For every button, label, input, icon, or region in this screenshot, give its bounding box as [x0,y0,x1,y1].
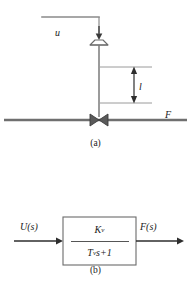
input-signal-label: U(s) [20,222,38,232]
lift-dimension-arrow-head-down [131,96,137,104]
diaphragm-actuator [90,40,108,45]
transfer-function-denominator: Tvs+1 [87,242,111,264]
valve-body-right-triangle [99,114,108,126]
valve-lift-label: l [139,82,142,92]
transfer-function-numerator: Kv [95,219,105,241]
output-signal-label: F(s) [140,222,157,232]
transfer-function-expression: Kv Tvs+1 [63,217,136,265]
input-signal-arrow-head [56,238,63,245]
panel-a-schematic [0,0,191,150]
denominator-rest: s+1 [96,247,112,258]
panel-b-caption: (b) [0,266,191,276]
numerator-subscript: v [101,226,104,234]
numerator-symbol: K [95,224,102,235]
figure-container: u l F (a) U(s) F(s) Kv Tvs+1 (b) [0,0,191,288]
control-signal-label: u [55,28,60,38]
downward-input-arrow-head [96,34,103,41]
lift-dimension-arrow-head-up [131,67,137,75]
output-signal-arrow-head [177,238,184,245]
valve-body-left-triangle [90,114,99,126]
flow-label: F [165,110,171,120]
panel-a-caption: (a) [0,139,191,149]
